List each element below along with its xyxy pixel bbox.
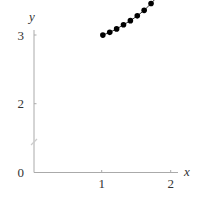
- data-point: [148, 1, 154, 7]
- data-point: [134, 13, 140, 19]
- y-axis-label: y: [27, 9, 35, 24]
- y-tick-label-0: 0: [18, 165, 25, 180]
- x-axis-label: x: [183, 164, 190, 179]
- data-point: [128, 18, 134, 24]
- data-point: [107, 30, 113, 36]
- x-tick-label-2: 2: [167, 176, 174, 191]
- x-tick-label-1: 1: [98, 176, 105, 191]
- series-markers: [100, 0, 168, 38]
- chart: 1 2 0 2 3 x y: [0, 0, 204, 197]
- data-point: [100, 32, 106, 38]
- data-point: [121, 22, 127, 28]
- data-point: [141, 8, 147, 14]
- y-tick-label-3: 3: [18, 28, 25, 43]
- series-line: [103, 0, 165, 35]
- y-tick-label-2: 2: [18, 96, 25, 111]
- data-point: [114, 26, 120, 32]
